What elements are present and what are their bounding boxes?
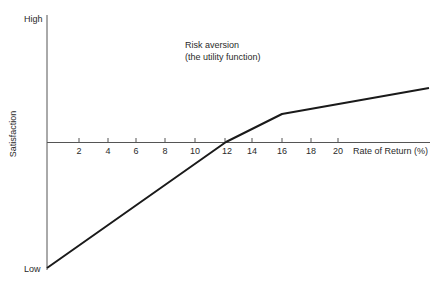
annotation-line1: Risk aversion	[185, 40, 239, 50]
annotation-line2: (the utility function)	[185, 52, 261, 62]
x-tick-label: 4	[105, 146, 110, 156]
y-axis-title: Satisfaction	[8, 111, 18, 158]
x-tick-label: 18	[306, 146, 316, 156]
x-axis-title: Rate of Return (%)	[353, 146, 428, 156]
x-tick-label: 10	[190, 146, 200, 156]
x-tick-label: 16	[277, 146, 287, 156]
x-tick-label: 6	[133, 146, 138, 156]
x-tick-label: 8	[162, 146, 167, 156]
y-low-label: Low	[24, 264, 41, 274]
y-high-label: High	[24, 14, 43, 24]
x-tick-label: 14	[247, 146, 257, 156]
x-tick-label: 20	[333, 146, 343, 156]
x-tick-label: 12	[222, 146, 232, 156]
x-tick-label: 2	[76, 146, 81, 156]
utility-curve	[47, 88, 429, 268]
